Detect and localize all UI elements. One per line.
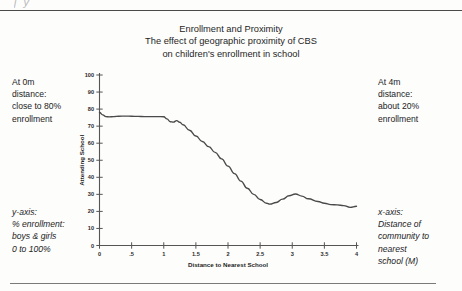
y-tick-label: 30 <box>88 191 94 197</box>
scanned-page: j y Enrollment and Proximity The effect … <box>0 0 462 291</box>
chart-series-line <box>100 113 357 208</box>
y-tick-label: 70 <box>88 123 94 129</box>
x-tick-label: 1 <box>162 251 165 257</box>
x-tick-label: 2 <box>226 251 229 257</box>
x-tick-label: 3.5 <box>320 251 328 257</box>
y-tick-label: 80 <box>88 106 94 112</box>
y-tick-label: 10 <box>88 225 94 231</box>
line-chart-plot: 01020304050607080901000.511.522.533.54 D… <box>0 0 462 291</box>
x-tick-label: 1.5 <box>192 251 200 257</box>
y-tick-label: 40 <box>88 174 94 180</box>
chart-axis-lines <box>100 73 359 246</box>
x-tick-label: 3 <box>291 251 294 257</box>
series-group <box>100 113 357 208</box>
y-tick-label: 90 <box>88 89 94 95</box>
axis-titles-group: Distance to Nearest SchoolAttending Scho… <box>78 134 268 267</box>
x-tick-label: 0 <box>98 251 101 257</box>
x-tick-label: 2.5 <box>256 251 264 257</box>
y-tick-label: 50 <box>88 157 94 163</box>
axes-group <box>100 73 359 246</box>
ticks-group <box>96 75 356 249</box>
chart-svg: 01020304050607080901000.511.522.533.54 D… <box>0 0 462 291</box>
y-tick-label: 100 <box>85 72 94 78</box>
y-tick-label: 20 <box>88 208 94 214</box>
x-tick-label: .5 <box>129 251 134 257</box>
tick-labels-group: 01020304050607080901000.511.522.533.54 <box>85 72 359 257</box>
x-axis-title: Distance to Nearest School <box>188 261 268 268</box>
y-tick-label: 60 <box>88 140 94 146</box>
x-tick-label: 4 <box>355 251 359 257</box>
y-axis-title: Attending School <box>78 134 85 185</box>
y-tick-label: 0 <box>91 243 94 249</box>
